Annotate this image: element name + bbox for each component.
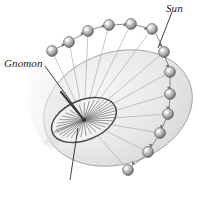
sun-sphere (165, 89, 176, 100)
sun-sphere (143, 147, 154, 158)
sun-sphere (155, 128, 166, 139)
sun-sphere (47, 46, 58, 57)
sun-sphere (104, 20, 115, 31)
sun-sphere (126, 19, 137, 30)
sun-sphere (83, 26, 94, 37)
sun-leader-line (158, 12, 172, 48)
sundial-illustration (0, 0, 197, 203)
shadow-cast-label-line1: Shadow cast (4, 202, 60, 203)
sun-label: Sun (166, 2, 183, 15)
sun-sphere (123, 165, 134, 176)
gnomon-label: Gnomon (4, 57, 43, 70)
sun-sphere (165, 67, 176, 78)
sun-sphere (159, 47, 170, 58)
sun-sphere (147, 24, 158, 35)
sun-sphere (163, 109, 174, 120)
shadow-cast-label: Shadow cast by gnomon (4, 177, 60, 203)
sundial-figure: Gnomon Sun Shadow cast by gnomon (0, 0, 197, 203)
sun-sphere (64, 37, 75, 48)
